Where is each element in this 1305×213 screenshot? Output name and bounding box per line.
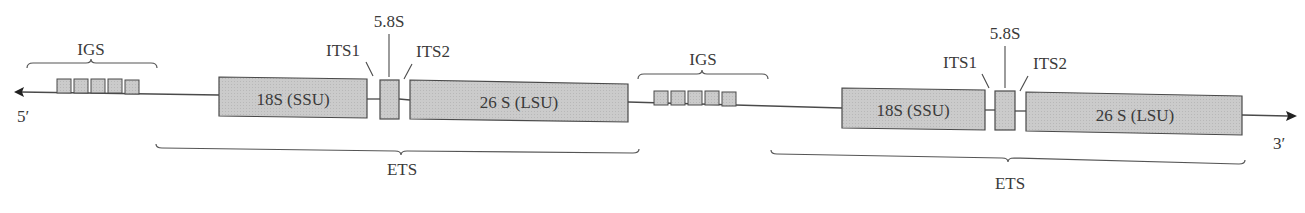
lsu-26s-label: 26 S (LSU)	[1096, 106, 1174, 125]
igs-repeat-blocks	[57, 79, 139, 94]
its2-label: ITS2	[416, 42, 450, 61]
ets-brace	[771, 150, 1245, 164]
s58-label: 5.8S	[990, 24, 1021, 43]
igs-brace	[638, 70, 768, 79]
ets-brace	[156, 144, 639, 155]
three-prime-label: 3′	[1273, 134, 1285, 153]
s58-box	[995, 91, 1015, 130]
ssu-18s-label: 18S (SSU)	[256, 90, 329, 109]
its2-label: ITS2	[1033, 54, 1067, 73]
repeat-unit-1: IGS 18S (SSU) 5.8S ITS1 ITS2 26 S (LSU) …	[27, 12, 639, 179]
ets-label: ETS	[387, 160, 417, 179]
ssu-18s-label: 18S (SSU)	[876, 101, 949, 120]
igs-label: IGS	[689, 50, 716, 69]
its1-label: ITS1	[943, 53, 977, 72]
s58-box	[380, 80, 399, 119]
repeat-unit-2: IGS 18S (SSU) 5.8S ITS1 ITS2 26 S (LSU) …	[638, 24, 1245, 193]
rdna-diagram: 5′ 3′ IGS 18S (SSU) 5.8S ITS1 ITS2 26 S …	[0, 0, 1305, 213]
lsu-26s-label: 26 S (LSU)	[480, 93, 558, 112]
igs-repeat-blocks	[654, 91, 736, 106]
its1-label: ITS1	[326, 41, 360, 60]
s58-label: 5.8S	[374, 12, 405, 31]
ets-label: ETS	[995, 174, 1025, 193]
igs-label: IGS	[77, 40, 104, 59]
five-prime-label: 5′	[17, 107, 29, 126]
igs-brace	[27, 59, 157, 68]
